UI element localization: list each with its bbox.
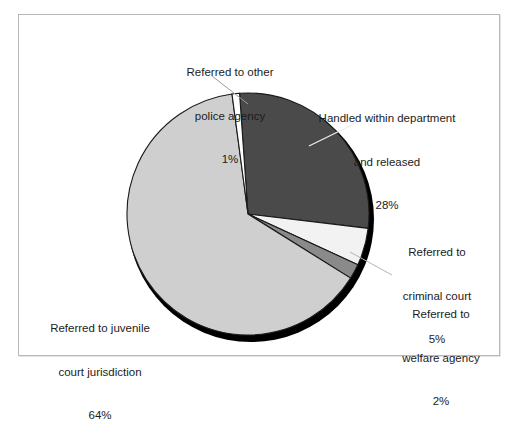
- slice-label-line2: welfare agency: [382, 351, 500, 366]
- slice-label-juvenile-court: Referred to juvenile court jurisdiction …: [16, 292, 184, 423]
- slice-label-value: 28%: [294, 198, 480, 213]
- slice-label-line1: Referred to: [382, 245, 492, 260]
- slice-label-line1: Referred to juvenile: [16, 321, 184, 336]
- slice-label-welfare-agency: Referred to welfare agency 2%: [382, 278, 500, 423]
- slice-label-line1: Referred to: [382, 307, 500, 322]
- slice-label-value: 64%: [16, 408, 184, 423]
- slice-label-line1: Referred to other: [150, 65, 310, 80]
- slice-label-line1: Handled within department: [294, 111, 480, 126]
- slice-label-line2: police agency: [150, 109, 310, 124]
- slice-label-value: 1%: [150, 152, 310, 167]
- slice-label-value: 2%: [382, 394, 500, 409]
- slice-label-line2: and released: [294, 155, 480, 170]
- slice-label-line2: court jurisdiction: [16, 365, 184, 380]
- slice-label-other-police-agency: Referred to other police agency 1%: [150, 36, 310, 196]
